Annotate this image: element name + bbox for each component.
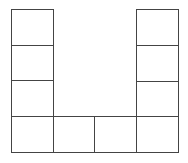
square-cell-left-1 <box>11 9 54 46</box>
square-cell-right-2 <box>136 45 179 82</box>
u-shaped-square-diagram <box>0 0 188 163</box>
square-cell-right-3 <box>136 80 179 117</box>
square-cell-bottom-1 <box>11 116 54 153</box>
square-cell-left-3 <box>11 80 54 117</box>
square-cell-right-1 <box>136 9 179 46</box>
square-cell-left-2 <box>11 45 54 82</box>
square-cell-bottom-3 <box>94 116 137 153</box>
square-cell-bottom-2 <box>53 116 96 153</box>
square-cell-bottom-4 <box>136 116 179 153</box>
